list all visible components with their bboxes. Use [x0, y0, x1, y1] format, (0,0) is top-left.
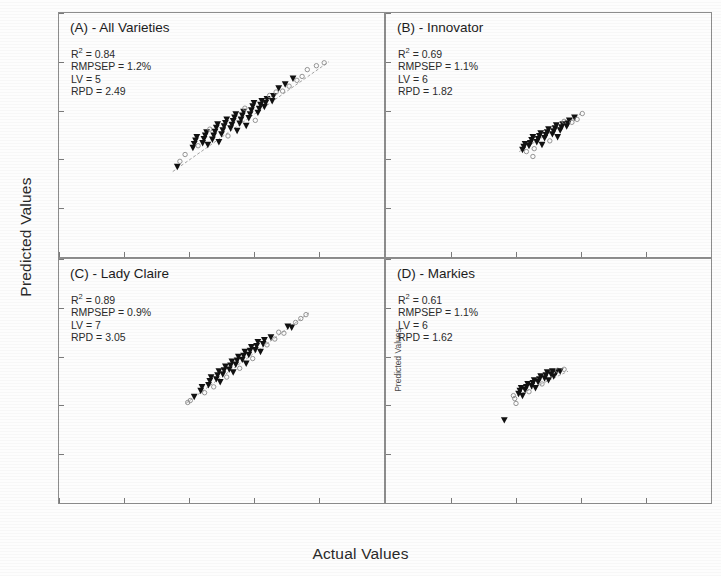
data-point-circle	[305, 67, 309, 71]
data-point-triangle	[257, 349, 264, 355]
data-point-triangle	[554, 134, 561, 140]
data-point-circle	[287, 84, 291, 88]
data-point-triangle	[275, 85, 282, 91]
y-tick	[59, 503, 64, 504]
data-point-circle	[548, 139, 552, 143]
data-point-triangle	[236, 120, 243, 126]
data-point-circle	[212, 385, 216, 389]
data-point-circle	[208, 127, 212, 131]
data-point-circle	[253, 118, 257, 122]
data-point-circle	[251, 356, 255, 360]
data-point-triangle	[243, 361, 250, 367]
data-point-circle	[196, 144, 200, 148]
scatter-plot-d	[386, 259, 711, 503]
data-point-triangle	[234, 128, 241, 134]
data-point-triangle	[230, 369, 237, 375]
scatter-plot-b	[386, 13, 711, 257]
data-point-circle	[277, 330, 281, 334]
data-point-circle	[280, 89, 284, 93]
y-axis-title: Predicted Values	[17, 137, 35, 337]
data-point-triangle	[218, 131, 225, 137]
data-point-triangle	[245, 115, 252, 121]
data-point-circle	[531, 154, 535, 158]
data-point-circle	[295, 78, 299, 82]
data-point-circle	[322, 61, 326, 65]
data-point-triangle	[216, 139, 223, 145]
data-point-triangle	[545, 377, 552, 383]
data-point-triangle	[519, 393, 526, 399]
scatter-plot-c	[59, 259, 384, 503]
x-tick	[711, 498, 712, 503]
data-point-circle	[304, 312, 308, 316]
data-point-circle	[226, 134, 230, 138]
panel-c: (C) - Lady ClaireR2 = 0.89RMPSEP = 0.9%L…	[58, 258, 385, 504]
data-point-triangle	[219, 371, 226, 377]
scatter-plot-a	[59, 13, 384, 257]
data-point-circle	[202, 391, 206, 395]
data-point-triangle	[288, 324, 295, 330]
figure-container: Predicted Values Actual Values (A) - All…	[0, 0, 721, 576]
data-point-triangle	[501, 417, 508, 423]
data-point-circle	[238, 366, 242, 370]
panel-d: (D) - MarkiesR2 = 0.61RMPSEP = 1.1%LV = …	[385, 258, 712, 504]
data-point-triangle	[243, 123, 250, 129]
panel-a: (A) - All VarietiesR2 = 0.84RMPSEP = 1.2…	[58, 12, 385, 258]
data-point-triangle	[217, 379, 224, 385]
data-point-circle	[524, 149, 528, 153]
data-point-triangle	[539, 142, 546, 148]
data-point-circle	[178, 159, 182, 163]
y-tick	[386, 503, 391, 504]
panel-grid: (A) - All VarietiesR2 = 0.84RMPSEP = 1.2…	[58, 12, 712, 504]
data-point-triangle	[190, 145, 197, 151]
panel-b: (B) - InnovatorR2 = 0.69RMPSEP = 1.1%LV …	[385, 12, 712, 258]
data-point-triangle	[269, 98, 276, 104]
data-point-circle	[514, 401, 518, 405]
data-point-circle	[183, 152, 187, 156]
data-point-triangle	[174, 164, 181, 170]
data-point-circle	[314, 64, 318, 68]
x-axis-title: Actual Values	[0, 545, 721, 563]
data-point-circle	[225, 375, 229, 379]
x-tick	[711, 252, 712, 257]
data-point-triangle	[252, 347, 259, 353]
data-point-circle	[532, 146, 536, 150]
data-point-circle	[575, 117, 579, 121]
data-point-circle	[300, 74, 304, 78]
data-point-triangle	[261, 104, 268, 110]
